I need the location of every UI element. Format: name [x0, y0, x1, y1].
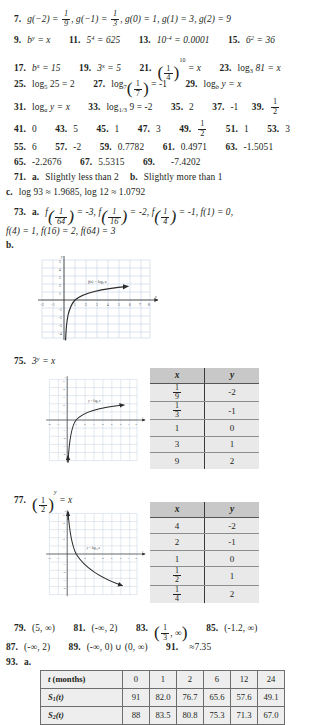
data-table-93-wrap: t (months) 0 1 2 6 12 24 S1(t) 91 82.0 7… [40, 670, 318, 725]
cell-x: 4 [150, 517, 205, 534]
exercise-number-55: 55. [14, 142, 26, 152]
column-header: 12 [231, 670, 258, 688]
y-axis-label: y [64, 510, 67, 513]
table-row: 3 1 [150, 436, 259, 453]
answer-25: log5 25 = 2 [32, 79, 75, 89]
block-77: −2−1 123 456 78 543 21 −1−2−3 −4 y = log… [0, 504, 318, 608]
paren-fraction-1-4b: (14) [154, 204, 176, 229]
y-axis-label: y [60, 255, 63, 259]
answer-45: 1 [115, 124, 120, 134]
row-label-t: t (months) [41, 670, 123, 688]
answer-65: -2.2676 [32, 157, 62, 167]
cell-x: 1 [150, 420, 205, 437]
answer-71b: Slightly more than 1 [144, 172, 223, 182]
exercise-number-51: 51. [226, 124, 238, 134]
table-75: x y 19 -2 13 -1 1 0 [150, 368, 259, 469]
svg-text:8: 8 [148, 303, 150, 307]
answer-71c: log 93 ≈ 1.9685, log 12 ≈ 1.0792 [19, 187, 146, 197]
graph-75-label: y = log₃ x [87, 399, 101, 403]
x-axis-label: x [141, 416, 144, 419]
svg-text:−2: −2 [58, 316, 62, 320]
answer-line-75: 75.3y = x [0, 348, 318, 370]
exercise-number-29: 29. [186, 79, 198, 89]
svg-text:3: 3 [59, 276, 61, 280]
answer-line-7: 7.g(−2) = 19, g(−1) = 13, g(0) = 1, g(1)… [0, 8, 318, 30]
table-row: 19 -2 [150, 383, 259, 401]
answer-7-body: g(−2) = 19, g(−1) = 13, g(0) = 1, g(1) =… [27, 14, 231, 24]
table-row-header: t (months) 0 1 2 6 12 24 [41, 670, 285, 688]
exercise-number-41: 41. [14, 124, 26, 134]
answer-line-65-69: 65.-2.2676 67.5.5315 69.-7.4202 [0, 155, 318, 170]
answer-7-tail: , g(0) = 1, g(1) = 3, g(2) = 9 [120, 14, 231, 24]
table-93: t (months) 0 1 2 6 12 24 S1(t) 91 82.0 7… [40, 670, 285, 725]
part-label-71a: a. [32, 172, 39, 182]
row-label-s2: S2(t) [41, 706, 123, 724]
row-label-s1: S1(t) [41, 688, 123, 706]
exercise-number-9: 9. [14, 35, 21, 45]
column-header: 0 [123, 670, 150, 688]
exercise-number-79: 79. [14, 623, 26, 633]
cell-value: 82.0 [150, 688, 177, 706]
cell-x: 1 [150, 550, 205, 567]
exercise-number-89: 89. [69, 642, 81, 652]
table-row: S2(t) 88 83.5 80.8 75.3 71.3 67.0 [41, 706, 285, 724]
answer-key-page: 7.g(−2) = 19, g(−1) = 13, g(0) = 1, g(1)… [0, 8, 318, 712]
table-row: S1(t) 91 82.0 76.7 65.6 57.6 49.1 [41, 688, 285, 706]
exercise-number-71: 71. [14, 172, 26, 182]
column-header: 2 [177, 670, 204, 688]
cell-y: -1 [205, 402, 260, 420]
svg-text:−4: −4 [58, 332, 62, 336]
answer-line-73a: 73.a.f(164) = -3, f(116) = -2, f(14) = -… [0, 200, 318, 224]
exercise-number-73: 73. [14, 207, 26, 217]
part-label-73b: b. [6, 240, 14, 250]
column-header-y: y [205, 368, 260, 384]
answer-31: loga y = x [32, 102, 70, 112]
graph-75: −2−1 123 456 78 543 21 −1−2−3 −4 y = log… [38, 370, 150, 470]
exercise-number-91: 91. [166, 642, 178, 652]
answer-51: 1 [244, 124, 249, 134]
answer-69: -7.4202 [171, 157, 201, 167]
answer-9: by = x [27, 35, 50, 45]
answer-15: 62 = 36 [246, 35, 275, 45]
exercise-number-7: 7. [14, 14, 21, 24]
block-75: −2−1 123 456 78 543 21 −1−2−3 −4 y = log… [0, 370, 318, 474]
answer-87: (-∞, 2) [24, 642, 50, 652]
answer-73a-body: f(164) = -3, f(116) = -2, f(14) = -1, f(… [45, 207, 233, 217]
answer-27: log7(17) = -1 [111, 79, 167, 89]
exercise-number-83: 83. [136, 623, 148, 633]
cell-value: 76.7 [177, 688, 204, 706]
cell-y: 2 [205, 453, 260, 469]
answer-line-25-29: 25.log5 25 = 2 27.log7(17) = -1 29.logb … [0, 72, 318, 96]
graph-75-svg: −2−1 123 456 78 543 21 −1−2−3 −4 y = log… [38, 370, 150, 470]
answer-47: 3 [156, 124, 161, 134]
exercise-number-93: 93. [6, 657, 18, 667]
graph-73b-label: f(x) = log₄ x [88, 280, 107, 284]
part-label-71c: c. [6, 187, 13, 197]
svg-text:1: 1 [59, 292, 61, 296]
table-row: 1 0 [150, 550, 259, 567]
exercise-number-35: 35. [171, 102, 183, 112]
svg-text:2: 2 [59, 284, 61, 288]
exercise-number-39: 39. [252, 102, 264, 112]
answer-line-41-53: 41.0 43.5 45.1 47.3 49.12 51.1 53.3 [0, 118, 318, 140]
cell-x: 19 [150, 383, 205, 401]
x-axis-label: x [154, 295, 157, 299]
exercise-number-85: 85. [206, 623, 218, 633]
answer-53: 3 [285, 124, 290, 134]
cell-y: -2 [205, 517, 260, 534]
answer-89: (-∞, 0) ∪ (0, ∞) [87, 642, 148, 652]
svg-text:2: 2 [85, 303, 87, 307]
svg-text:6: 6 [129, 303, 131, 307]
value-table-75: x y 19 -2 13 -1 1 0 [150, 368, 259, 469]
column-header: 24 [258, 670, 285, 688]
fraction-1-3: 13 [111, 10, 119, 28]
cell-y: 2 [205, 585, 260, 603]
cell-value: 91 [123, 688, 150, 706]
exercise-number-65: 65. [14, 157, 26, 167]
cell-value: 88 [123, 706, 150, 724]
answer-73a-line2: f(4) = 1, f(16) = 2, f(64) = 3 [6, 226, 115, 236]
cell-x: 3 [150, 436, 205, 453]
answer-85: (-1.2, ∞) [224, 623, 257, 633]
svg-text:5: 5 [59, 260, 61, 264]
exercise-number-31: 31. [14, 102, 26, 112]
